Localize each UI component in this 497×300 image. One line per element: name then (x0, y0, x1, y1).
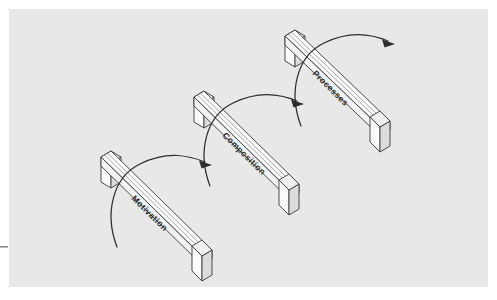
diagram-canvas: Motivation (0, 0, 497, 300)
figure-root: Motivation (0, 0, 497, 300)
left-edge-tick (0, 246, 8, 248)
